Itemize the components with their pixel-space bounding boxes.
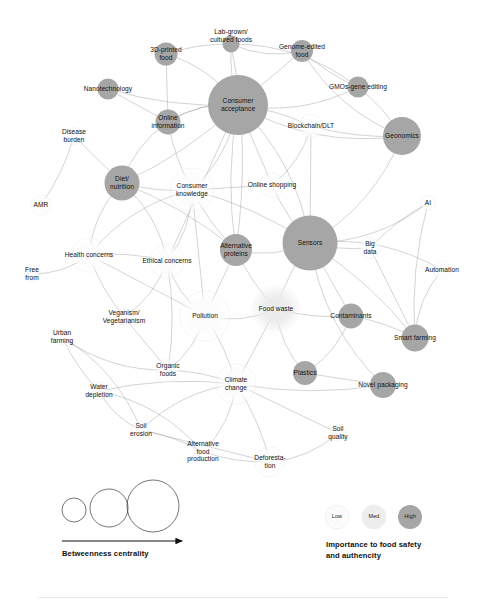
graph-node-water-depletion[interactable] — [90, 382, 108, 400]
graph-edge — [62, 337, 99, 391]
graph-node-ai[interactable] — [421, 196, 436, 211]
graph-node-health-concerns[interactable] — [72, 238, 106, 272]
graph-edge — [231, 44, 242, 250]
graph-node-consumer-knowledge[interactable] — [170, 168, 214, 212]
footer-divider — [38, 597, 448, 598]
graph-edge — [236, 384, 383, 391]
graph-node-automation[interactable] — [433, 261, 451, 279]
graph-node-pollution[interactable] — [180, 291, 230, 341]
legend-color-label-med: Med — [369, 513, 380, 519]
legend-color-label-high: High — [404, 513, 416, 519]
graph-node-consumer-acceptance[interactable] — [208, 75, 268, 135]
graph-edge — [99, 391, 203, 452]
node-label-lab-grown-cultured: Lab-grown/ — [214, 28, 248, 36]
network-diagram-figure: 3D-printedfoodLab-grown/cultured foodsGe… — [0, 0, 486, 603]
graph-edge — [414, 203, 428, 338]
graph-node-soil-erosion[interactable] — [132, 421, 151, 440]
graph-node-novel-packaging[interactable] — [370, 372, 396, 398]
graph-node-alternative-food-prod[interactable] — [194, 443, 212, 461]
graph-node-geonomics[interactable] — [383, 117, 421, 155]
graph-node-blockchain-dlt[interactable] — [299, 114, 323, 138]
graph-node-food-waste[interactable] — [250, 283, 302, 335]
legend-size-caption: Betweenness centrality — [62, 549, 149, 558]
graph-node-3d-printed-food[interactable] — [155, 43, 178, 66]
graph-node-contaminants[interactable] — [339, 304, 364, 329]
legend-size-circle-large — [127, 480, 179, 532]
legend-size-circle-small — [62, 498, 86, 522]
graph-node-deforestation[interactable] — [255, 447, 285, 477]
graph-node-genome-edited-food[interactable] — [291, 40, 313, 62]
graph-node-ethical-concerns[interactable] — [150, 244, 184, 278]
legend-size-circle-medium — [90, 489, 128, 527]
legend-color-caption-line1: Importance to food safety — [326, 540, 422, 549]
graph-node-organic-foods[interactable] — [156, 358, 180, 382]
graph-node-free-from[interactable] — [25, 267, 40, 282]
graph-node-soil-quality[interactable] — [330, 425, 346, 441]
graph-node-gmos-gene-editing[interactable] — [348, 77, 369, 98]
nodes-layer[interactable] — [25, 36, 452, 478]
graph-node-lab-grown-cultured[interactable] — [223, 36, 240, 53]
graph-node-veganism-vegetarianism[interactable] — [116, 309, 132, 325]
graph-edge — [370, 248, 415, 338]
graph-node-alternative-proteins[interactable] — [220, 234, 252, 266]
graph-edge — [370, 203, 428, 248]
graph-node-amr[interactable] — [31, 195, 51, 215]
graph-node-smart-farming[interactable] — [402, 325, 429, 352]
legend-importance: LowMedHigh Importance to food safety and… — [325, 505, 422, 560]
legend-color-items: LowMedHigh — [325, 505, 422, 529]
graph-node-plastics[interactable] — [293, 361, 317, 385]
legend-color-caption-line2: and authencity — [326, 551, 382, 560]
graph-edge — [41, 136, 74, 205]
graph-node-sensors[interactable] — [283, 216, 338, 271]
graph-node-online-shopping[interactable] — [260, 173, 284, 197]
graph-node-online-information[interactable] — [156, 110, 181, 135]
graph-node-disease-burden[interactable] — [66, 128, 83, 145]
graph-node-big-data[interactable] — [360, 238, 381, 259]
legend-size-circles — [62, 480, 179, 532]
graph-canvas[interactable]: 3D-printedfoodLab-grown/cultured foodsGe… — [0, 0, 486, 603]
legend-betweenness-centrality: Betweenness centrality — [62, 480, 182, 558]
graph-node-urban-farming[interactable] — [54, 329, 70, 345]
graph-node-nanotechnology[interactable] — [98, 79, 119, 100]
graph-node-diet-nutrition[interactable] — [105, 166, 140, 201]
graph-node-climate-change[interactable] — [216, 364, 256, 404]
legend-color-label-low: Low — [332, 513, 343, 519]
graph-edge — [141, 430, 203, 452]
